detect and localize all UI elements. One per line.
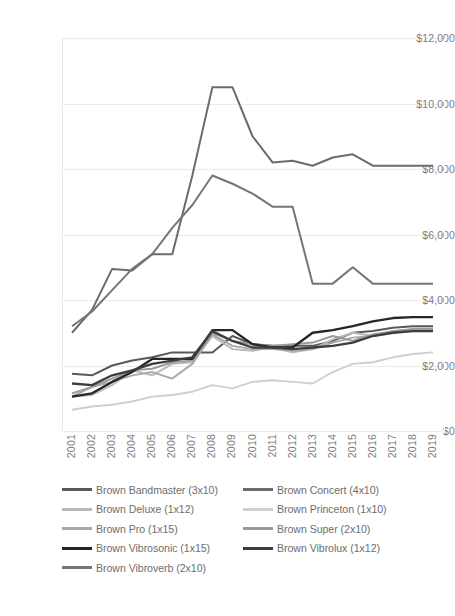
figure-caption [0, 600, 455, 616]
series-line [72, 352, 433, 409]
legend-item[interactable]: Brown Concert (4x10) [243, 484, 443, 496]
x-tick-label: 2015 [346, 434, 360, 458]
x-tick-label: 2019 [426, 434, 440, 458]
legend-row: Brown Deluxe (1x12)Brown Princeton (1x10… [62, 500, 443, 520]
legend-swatch-icon [62, 527, 92, 530]
x-tick-label: 2002 [85, 434, 99, 458]
x-tick-label: 2018 [406, 434, 420, 458]
figure-container: $0$2,000$4,000$6,000$8,000$10,000$12,000… [0, 0, 455, 616]
x-tick-label: 2004 [125, 434, 139, 458]
x-tick-label: 2013 [306, 434, 320, 458]
legend-swatch-icon [243, 527, 273, 530]
legend-label: Brown Princeton (1x10) [277, 503, 387, 515]
x-tick-label: 2003 [105, 434, 119, 458]
x-tick-label: 2005 [145, 434, 159, 458]
series-line [72, 176, 433, 327]
legend-row: Brown Vibrosonic (1x15)Brown Vibrolux (1… [62, 539, 443, 559]
chart-legend: Brown Bandmaster (3x10)Brown Concert (4x… [62, 480, 443, 578]
legend-row: Brown Bandmaster (3x10)Brown Concert (4x… [62, 480, 443, 500]
legend-row: Brown Pro (1x15)Brown Super (2x10) [62, 519, 443, 539]
legend-item[interactable]: Brown Princeton (1x10) [243, 503, 443, 515]
x-tick-label: 2011 [266, 434, 280, 457]
legend-label: Brown Pro (1x15) [96, 523, 178, 535]
x-tick-label: 2009 [225, 434, 239, 458]
x-tick-label: 2007 [185, 434, 199, 458]
series-line [72, 87, 433, 333]
x-tick-label: 2012 [286, 434, 300, 458]
x-axis-tick-labels: 2001200220032004200520062007200820092010… [62, 434, 443, 478]
legend-item[interactable]: Brown Vibrolux (1x12) [243, 542, 443, 554]
x-tick-label: 2001 [65, 434, 79, 458]
legend-swatch-icon [243, 508, 273, 511]
series-lines [62, 38, 443, 431]
legend-item[interactable]: Brown Vibroverb (2x10) [62, 562, 443, 574]
legend-label: Brown Deluxe (1x12) [96, 503, 194, 515]
legend-item[interactable]: Brown Bandmaster (3x10) [62, 484, 243, 496]
legend-label: Brown Vibrosonic (1x15) [96, 542, 210, 554]
legend-swatch-icon [62, 508, 92, 511]
legend-label: Brown Vibrolux (1x12) [277, 542, 380, 554]
legend-swatch-icon [243, 488, 273, 491]
legend-swatch-icon [62, 488, 92, 491]
x-tick-label: 2017 [386, 434, 400, 458]
legend-row: Brown Vibroverb (2x10) [62, 558, 443, 578]
chart-plot-area: $0$2,000$4,000$6,000$8,000$10,000$12,000… [0, 0, 455, 470]
x-tick-label: 2010 [246, 434, 260, 458]
x-tick-label: 2006 [165, 434, 179, 458]
legend-swatch-icon [243, 547, 273, 550]
x-tick-label: 2014 [326, 434, 340, 458]
legend-swatch-icon [62, 566, 92, 569]
legend-label: Brown Vibroverb (2x10) [96, 562, 206, 574]
x-tick-label: 2016 [366, 434, 380, 458]
x-tick-label: 2008 [205, 434, 219, 458]
gridline [62, 431, 443, 432]
legend-label: Brown Bandmaster (3x10) [96, 484, 218, 496]
legend-swatch-icon [62, 547, 92, 550]
legend-item[interactable]: Brown Deluxe (1x12) [62, 503, 243, 515]
legend-item[interactable]: Brown Super (2x10) [243, 523, 443, 535]
legend-item[interactable]: Brown Vibrosonic (1x15) [62, 542, 243, 554]
legend-label: Brown Concert (4x10) [277, 484, 379, 496]
series-line [72, 317, 433, 397]
legend-label: Brown Super (2x10) [277, 523, 370, 535]
legend-item[interactable]: Brown Pro (1x15) [62, 523, 243, 535]
